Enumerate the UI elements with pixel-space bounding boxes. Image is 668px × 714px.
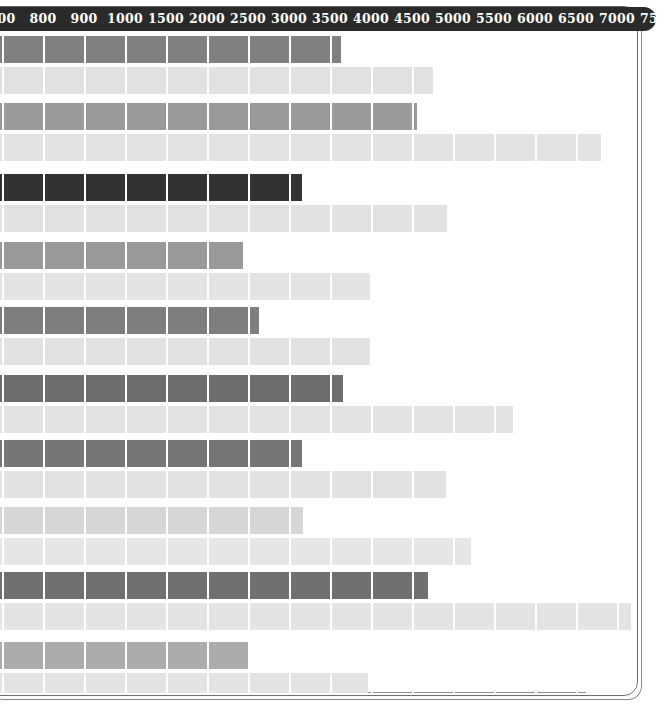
bar[interactable] — [0, 134, 601, 161]
x-axis-tick-label: 700 — [0, 7, 16, 31]
bar[interactable] — [0, 406, 513, 433]
bar[interactable] — [0, 242, 243, 269]
x-axis-tick-label: 7000 — [599, 7, 635, 31]
bar[interactable] — [0, 507, 303, 534]
x-axis-tick-label: 7500 — [640, 7, 668, 31]
bar[interactable] — [0, 307, 259, 334]
bar[interactable] — [0, 174, 302, 201]
x-axis-tick-label: 800 — [30, 7, 57, 31]
x-axis-tick-label: 6000 — [517, 7, 553, 31]
x-axis-tick-label: 1000 — [107, 7, 143, 31]
x-axis-tick-label: 5000 — [435, 7, 471, 31]
x-axis-tick-label: 3500 — [312, 7, 348, 31]
x-axis-tick-label: 2000 — [189, 7, 225, 31]
x-axis-tick-label: 5500 — [476, 7, 512, 31]
plot-area — [0, 33, 668, 693]
bar[interactable] — [0, 103, 417, 130]
bar[interactable] — [0, 205, 447, 232]
x-axis-tick-label: 4000 — [353, 7, 389, 31]
x-axis-tick-label: 6500 — [558, 7, 594, 31]
x-axis-tick-label: 1500 — [148, 7, 184, 31]
bar[interactable] — [0, 273, 370, 300]
bar[interactable] — [0, 642, 248, 669]
x-axis-tick-label: 2500 — [230, 7, 266, 31]
bar-series-container — [0, 33, 668, 693]
x-axis-tick-label: 4500 — [394, 7, 430, 31]
x-axis-tick-label: 3000 — [271, 7, 307, 31]
bar[interactable] — [0, 375, 343, 402]
bar[interactable] — [0, 440, 302, 467]
x-axis-tick-label: 900 — [71, 7, 98, 31]
bar[interactable] — [0, 471, 446, 498]
bar[interactable] — [0, 338, 370, 365]
chart-canvas: 7008009001000150020002500300035004000450… — [0, 0, 668, 714]
bar[interactable] — [0, 673, 368, 693]
bar[interactable] — [0, 67, 433, 94]
bar[interactable] — [0, 603, 631, 630]
bar[interactable] — [0, 538, 471, 565]
x-axis-tick-labels: 7008009001000150020002500300035004000450… — [0, 7, 668, 31]
bar[interactable] — [0, 36, 341, 63]
bar[interactable] — [0, 572, 428, 599]
